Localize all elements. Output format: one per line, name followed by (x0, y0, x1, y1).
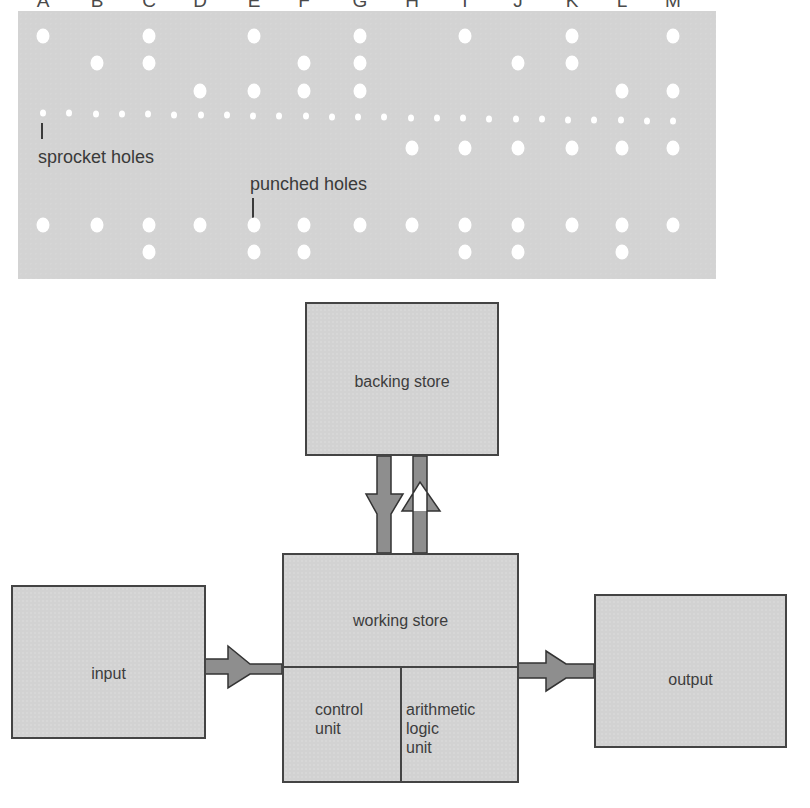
working-store-label: working store (284, 611, 517, 630)
control-unit-label: control unit (315, 700, 363, 738)
alu-line-2: logic (406, 719, 475, 738)
arrow-down-icon (366, 456, 403, 553)
output-label: output (596, 670, 785, 689)
arrow-right-input-icon (205, 646, 282, 688)
arrow-right-output-icon (518, 651, 594, 691)
alu-label: arithmetic logic unit (406, 700, 475, 758)
input-label: input (13, 664, 204, 683)
alu-line-3: unit (406, 738, 475, 757)
backing-store-label: backing store (307, 372, 497, 391)
output-block: output (594, 594, 787, 748)
backing-store-block: backing store (305, 302, 499, 456)
input-block: input (11, 585, 206, 739)
control-unit-line-1: control (315, 700, 363, 719)
cpu-divider-vertical (400, 666, 402, 783)
control-unit-line-2: unit (315, 719, 363, 738)
alu-line-1: arithmetic (406, 700, 475, 719)
cpu-block: working store control unit arithmetic lo… (282, 553, 519, 783)
